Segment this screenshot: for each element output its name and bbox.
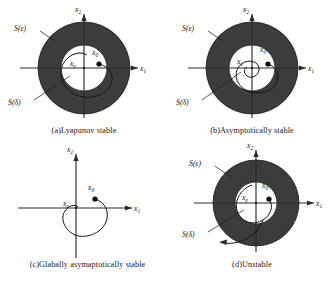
panel-asymptotically-stable: S(ε) S(δ) xe x0 x1 x2 (b)Asymptotically … — [168, 0, 336, 142]
x1-axis-arrowhead — [307, 200, 314, 205]
epsilon-set-label-a: S(ε) — [14, 24, 27, 33]
equilibrium-dot-b — [251, 67, 253, 69]
delta-set-label-d: S(δ) — [182, 230, 195, 239]
panel-unstable: S(ε) S(δ) xe x0 x1 x2 (d)Unstable — [168, 142, 336, 284]
delta-set-label-b: S(δ) — [176, 98, 189, 107]
equilibrium-dot-c — [75, 207, 77, 209]
equilibrium-label-a: xe — [69, 59, 76, 69]
initial-state-dot-b — [265, 61, 270, 66]
epsilon-set-label-d: S(ε) — [189, 159, 202, 168]
panel-lyapunov-stable: S(ε) S(δ) xe x0 x1 x2 (a)Lyapunov stable — [0, 0, 168, 142]
initial-state-dot-a — [96, 61, 101, 66]
x2-axis-label-c: x2 — [66, 145, 73, 155]
equilibrium-label-b: xe — [236, 57, 243, 67]
panel-c-diagram: xe x0 x1 x2 — [0, 142, 168, 268]
x2-axis-arrowhead — [73, 154, 78, 161]
x1-axis-label-c: x1 — [133, 204, 140, 214]
x2-axis-label-d: x2 — [246, 141, 253, 151]
equilibrium-label-c: xe — [62, 199, 69, 209]
x1-axis-arrowhead — [299, 65, 306, 70]
panel-b-diagram: S(ε) S(δ) xe x0 x1 x2 — [168, 0, 336, 130]
delta-set-label-a: S(δ) — [8, 98, 21, 107]
x2-axis-arrowhead — [81, 14, 86, 21]
x2-axis-label-a: x2 — [74, 5, 81, 15]
x2-axis-label-b: x2 — [242, 5, 249, 15]
epsilon-set-label-b: S(ε) — [182, 24, 195, 33]
equilibrium-label-d: xe — [241, 193, 248, 203]
x2-axis-arrowhead — [253, 150, 258, 157]
x1-axis-label-a: x1 — [139, 64, 146, 74]
escape-arrowhead — [219, 240, 227, 245]
caption-panel-a: (a)Lyapunov stable — [0, 126, 168, 135]
equilibrium-dot-d — [255, 202, 257, 204]
initial-state-dot-d — [266, 196, 271, 201]
caption-panel-b: (b)Asymptotically stable — [168, 126, 336, 135]
equilibrium-dot-a — [83, 67, 85, 69]
x1-axis-arrowhead — [125, 205, 132, 210]
panel-d-diagram: S(ε) S(δ) xe x0 x1 x2 — [168, 142, 336, 268]
x1-axis-arrowhead — [131, 65, 138, 70]
caption-panel-c: (c)Glabally asymaptotically stable — [0, 260, 175, 269]
x1-axis-label-d: x1 — [315, 199, 322, 209]
initial-state-label-c: x0 — [87, 183, 94, 193]
panel-globally-asymptotically-stable: xe x0 x1 x2 (c)Glabally asymaptotically … — [0, 142, 168, 284]
caption-panel-d: (d)Unstable — [168, 260, 336, 269]
trajectory-path-c — [63, 199, 108, 236]
initial-state-dot-c — [92, 196, 97, 201]
lyapunov-stability-figure: S(ε) S(δ) xe x0 x1 x2 (a)Lyapunov stable — [0, 0, 336, 284]
x1-axis-label-b: x1 — [307, 64, 314, 74]
panel-a-diagram: S(ε) S(δ) xe x0 x1 x2 — [0, 0, 168, 130]
x2-axis-arrowhead — [249, 14, 254, 21]
